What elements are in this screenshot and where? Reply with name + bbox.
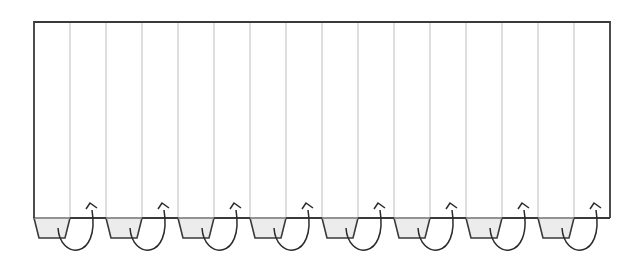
arrowhead-icon [590,203,601,209]
bottom-tabs [34,218,574,238]
arrowhead-icon [518,203,529,209]
arrowhead-icon [302,203,313,209]
fold-lines [70,22,574,218]
tab-flap [322,218,358,238]
arrowhead-icon [446,203,457,209]
tab-flap [34,218,70,238]
arrowhead-icon [230,203,241,209]
tab-flap [178,218,214,238]
diagram-canvas [0,0,643,272]
tab-flap [394,218,430,238]
arrowhead-icon [86,203,97,209]
arrowhead-icon [158,203,169,209]
tab-flap [106,218,142,238]
arrowhead-icon [374,203,385,209]
tab-flap [538,218,574,238]
tab-flap [250,218,286,238]
tab-flap [466,218,502,238]
